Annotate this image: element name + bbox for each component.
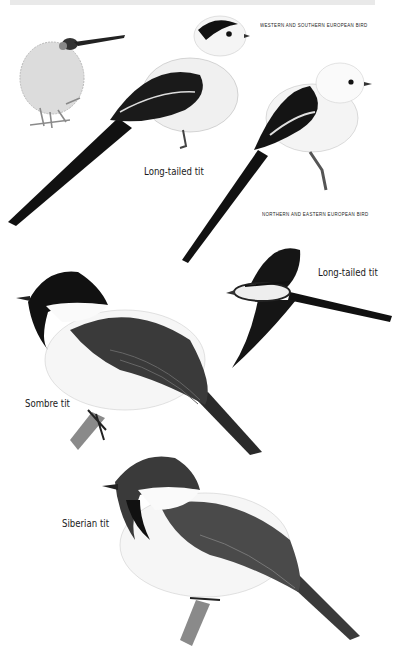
sombre-tit-illustration [16, 272, 262, 455]
label-long-tailed-tit-perched: Long-tailed tit [144, 165, 204, 178]
caption-northern-european-bird: NORTHERN AND EASTERN EUROPEAN BIRD [262, 211, 369, 217]
label-sombre-tit: Sombre tit [25, 397, 70, 410]
siberian-tit-illustration [102, 456, 360, 646]
label-siberian-tit: Siberian tit [62, 517, 109, 530]
nest-illustration [20, 35, 125, 128]
bird-plate-illustration [0, 0, 403, 660]
caption-western-european-bird: WESTERN AND SOUTHERN EUROPEAN BIRD [260, 22, 368, 28]
label-long-tailed-tit-flight: Long-tailed tit [318, 266, 378, 279]
